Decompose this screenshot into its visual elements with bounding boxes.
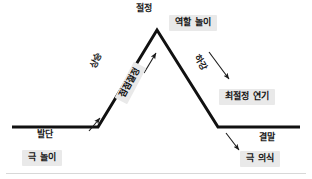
label-denouement: 결말 xyxy=(259,133,275,142)
label-climax: 절정 xyxy=(136,4,152,13)
label-exposition: 발단 xyxy=(37,130,53,139)
falling-arrow-icon xyxy=(209,52,229,79)
denouement-arrow-icon xyxy=(226,133,239,150)
box-drama-ritual: 극 의식 xyxy=(240,151,280,167)
box-role-play: 역할 놀이 xyxy=(169,15,217,31)
drama-structure-diagram: 절정 발단 결말 상승 하강 극 놀이 역할 놀이 점점절정 최절정 연기 극 … xyxy=(0,0,312,179)
page-divider-rule xyxy=(6,173,306,174)
box-climactic-acting: 최절정 연기 xyxy=(219,89,275,105)
box-drama-play: 극 놀이 xyxy=(22,150,62,166)
dramatic-arc-line xyxy=(12,30,300,127)
rising-apex-arrow-icon xyxy=(144,53,156,73)
